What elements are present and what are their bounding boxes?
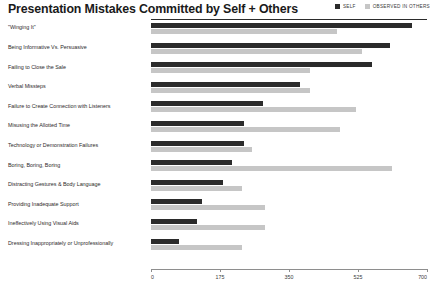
bar-observed-in-others[interactable]	[151, 107, 356, 112]
bar-group	[151, 100, 427, 114]
bar-self[interactable]	[151, 199, 202, 204]
bar-group	[151, 218, 427, 232]
category-label: Failing to Close the Sale	[8, 64, 66, 70]
bar-self[interactable]	[151, 239, 179, 244]
category-label: Providing Inadequate Support	[8, 201, 79, 207]
bar-group	[151, 120, 427, 134]
bar-group	[151, 81, 427, 95]
bar-group	[151, 42, 427, 56]
bar-group	[151, 22, 427, 36]
category-label: Being Informative Vs. Persuasive	[8, 44, 87, 50]
bar-group	[151, 140, 427, 154]
chart-title: Presentation Mistakes Committed by Self …	[8, 2, 298, 16]
bar-observed-in-others[interactable]	[151, 49, 362, 54]
bar-observed-in-others[interactable]	[151, 245, 242, 250]
bar-group	[151, 61, 427, 75]
bar-observed-in-others[interactable]	[151, 88, 310, 93]
category-label: Verbal Missteps	[8, 83, 46, 89]
bar-self[interactable]	[151, 180, 223, 185]
category-label: Failure to Create Connection with Listen…	[8, 103, 111, 109]
bar-group	[151, 179, 427, 193]
bar-self[interactable]	[151, 219, 197, 224]
axis-tick-label: 350	[285, 274, 294, 280]
axis-tick-mark	[427, 269, 428, 272]
category-axis-labels: "Winging It"Being Informative Vs. Persua…	[8, 20, 148, 268]
axis-tick-mark	[151, 269, 152, 272]
bar-group	[151, 238, 427, 252]
axis-tick-mark	[220, 269, 221, 272]
legend-entry[interactable]: OBSERVED IN OTHERS	[365, 4, 430, 9]
category-label: Boring, Boring, Boring	[8, 162, 60, 168]
category-label: Technology or Demonstration Failures	[8, 142, 98, 148]
axis-tick-mark	[289, 269, 290, 272]
square-swatch	[335, 4, 340, 9]
category-label: Ineffectively Using Visual Aids	[8, 220, 79, 226]
bar-self[interactable]	[151, 82, 300, 87]
bar-observed-in-others[interactable]	[151, 186, 242, 191]
value-axis: 0175350525700	[151, 269, 427, 291]
legend-label: SELF	[343, 4, 356, 9]
bar-self[interactable]	[151, 141, 244, 146]
bar-self[interactable]	[151, 43, 390, 48]
bar-group	[151, 198, 427, 212]
category-label: "Winging It"	[8, 24, 36, 30]
axis-tick-label: 525	[354, 274, 363, 280]
bar-self[interactable]	[151, 62, 372, 67]
plot-area	[151, 20, 427, 268]
bar-group	[151, 159, 427, 173]
bar-self[interactable]	[151, 121, 244, 126]
bar-observed-in-others[interactable]	[151, 127, 340, 132]
category-label: Dressing Inappropriately or Unprofession…	[8, 240, 113, 246]
legend-entry[interactable]: SELF	[335, 4, 356, 9]
chart-legend: SELFOBSERVED IN OTHERS	[335, 4, 430, 9]
bar-observed-in-others[interactable]	[151, 147, 252, 152]
bar-observed-in-others[interactable]	[151, 68, 310, 73]
chart-container: Presentation Mistakes Committed by Self …	[0, 0, 436, 292]
legend-label: OBSERVED IN OTHERS	[373, 4, 430, 9]
axis-tick-label: 0	[151, 274, 154, 280]
bar-self[interactable]	[151, 101, 263, 106]
bar-observed-in-others[interactable]	[151, 205, 265, 210]
bar-observed-in-others[interactable]	[151, 29, 337, 34]
category-label: Distracting Gestures & Body Language	[8, 181, 100, 187]
bar-self[interactable]	[151, 23, 412, 28]
axis-tick-mark	[358, 269, 359, 272]
axis-tick-label: 700	[418, 274, 427, 280]
bar-observed-in-others[interactable]	[151, 225, 265, 230]
square-swatch	[365, 4, 370, 9]
bar-self[interactable]	[151, 160, 232, 165]
category-label: Misusing the Allotted Time	[8, 122, 70, 128]
axis-tick-label: 175	[216, 274, 225, 280]
bar-observed-in-others[interactable]	[151, 166, 392, 171]
